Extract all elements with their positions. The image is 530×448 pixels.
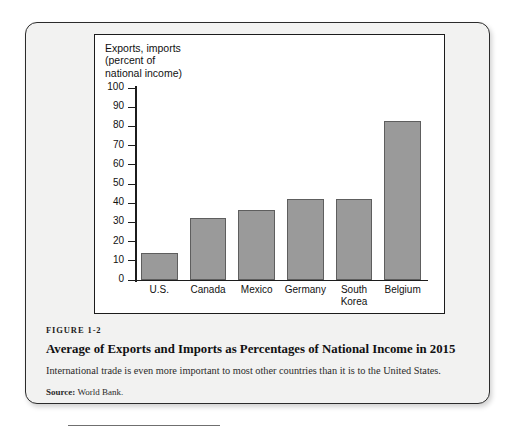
y-axis-tick-label: 100 <box>107 81 128 92</box>
y-axis-tick: 30 <box>128 222 135 223</box>
y-axis-tick: 80 <box>128 126 135 127</box>
figure-source: Source: World Bank. <box>46 387 473 397</box>
y-axis-tick-label: 0 <box>118 273 128 284</box>
y-axis-tick: 50 <box>128 184 135 185</box>
y-axis-tick: 20 <box>128 241 135 242</box>
source-text: World Bank. <box>77 387 123 397</box>
y-axis-tick-label: 30 <box>113 215 128 226</box>
y-axis-tick: 0 <box>128 280 135 281</box>
footnote-rule <box>68 425 220 426</box>
y-axis-tick-label: 90 <box>113 100 128 111</box>
figure-number: FIGURE 1-2 <box>46 325 473 335</box>
y-axis-tick-label: 50 <box>113 177 128 188</box>
plot-area <box>135 88 427 280</box>
y-axis-tick-label: 60 <box>113 158 128 169</box>
y-axis-tick: 70 <box>128 145 135 146</box>
bar <box>190 218 227 280</box>
y-axis-tick: 100 <box>128 88 135 89</box>
y-axis-tick-label: 10 <box>113 254 128 265</box>
x-axis-label: U.S. <box>135 284 184 296</box>
x-axis-label: Belgium <box>378 284 427 296</box>
x-axis-label: South Korea <box>330 284 379 307</box>
bar <box>238 210 275 280</box>
bar <box>141 253 178 280</box>
y-axis-tick: 60 <box>128 164 135 165</box>
x-axis-label: Mexico <box>232 284 281 296</box>
x-axis-label: Germany <box>281 284 330 296</box>
figure-title: Average of Exports and Imports as Percen… <box>46 342 473 357</box>
y-axis-tick-label: 20 <box>113 235 128 246</box>
y-axis-tick: 90 <box>128 107 135 108</box>
y-axis-tick-label: 40 <box>113 196 128 207</box>
y-axis-tick-label: 80 <box>113 119 128 130</box>
bar <box>336 199 373 280</box>
y-axis-tick-label: 70 <box>113 139 128 150</box>
figure-box: Exports, imports (percent of national in… <box>25 22 490 404</box>
chart-panel: Exports, imports (percent of national in… <box>94 34 445 314</box>
source-label: Source: <box>46 387 75 397</box>
y-axis-tick: 40 <box>128 203 135 204</box>
figure-description: International trade is even more importa… <box>46 364 473 377</box>
y-axis-title: Exports, imports (percent of national in… <box>105 42 182 79</box>
bar <box>287 199 324 280</box>
y-axis-tick: 10 <box>128 260 135 261</box>
bar <box>384 121 421 280</box>
caption-block: FIGURE 1-2 Average of Exports and Import… <box>46 325 473 397</box>
x-axis-label: Canada <box>184 284 233 296</box>
